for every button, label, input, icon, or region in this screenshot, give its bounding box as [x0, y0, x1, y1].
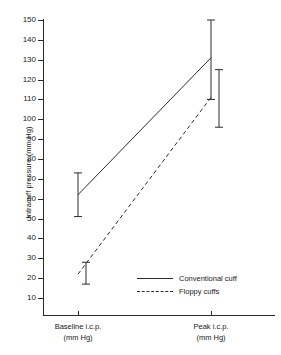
legend-label-floppy-cuffs: Floppy cuffs: [179, 285, 219, 298]
legend-line-solid-icon: [137, 275, 173, 282]
plot-area: [0, 0, 281, 355]
legend-line-dashed-icon: [137, 288, 173, 295]
series-line-floppy-cuffs: [78, 97, 211, 274]
legend-label-conventional-cuff: Conventional cuff: [179, 272, 237, 285]
series-line-conventional-cuff: [78, 58, 211, 195]
legend-item-conventional-cuff: Conventional cuff: [137, 272, 237, 285]
error-bar-floppy-baseline: [82, 262, 90, 284]
chart-legend: Conventional cuff Floppy cuffs: [137, 272, 237, 298]
error-bar-floppy-peak: [215, 70, 223, 128]
error-bar-conventional-baseline: [74, 173, 82, 217]
error-bar-conventional-peak: [207, 20, 215, 99]
chart-figure: Intracuff pressure (mm Hg) 1501401301201…: [0, 0, 281, 355]
legend-item-floppy-cuffs: Floppy cuffs: [137, 285, 237, 298]
